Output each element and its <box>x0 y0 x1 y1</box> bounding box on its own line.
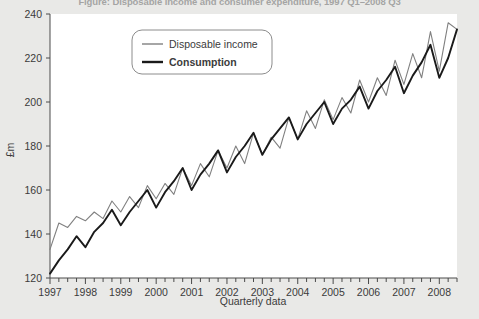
x-tick-label: 2001 <box>180 286 204 298</box>
chart-figure: Figure: Disposable income and consumer e… <box>0 0 479 319</box>
y-tick-label: 240 <box>24 8 42 20</box>
x-tick-label: 2006 <box>357 286 381 298</box>
y-tick-label: 200 <box>24 96 42 108</box>
y-tick-label: 160 <box>24 184 42 196</box>
x-tick-label: 2007 <box>392 286 416 298</box>
x-tick-label: 1997 <box>38 286 62 298</box>
x-tick-label: 2005 <box>321 286 345 298</box>
x-tick-label: 2000 <box>144 286 168 298</box>
legend-label-consumption: Consumption <box>169 56 237 68</box>
line-chart-svg: 120140160180200220240 199719981999200020… <box>0 0 479 319</box>
x-axis-title: Quarterly data <box>220 295 287 307</box>
y-tick-label: 180 <box>24 140 42 152</box>
y-tick-label: 140 <box>24 228 42 240</box>
x-tick-label: 1998 <box>74 286 98 298</box>
y-tick-label: 120 <box>24 272 42 284</box>
y-tick-label: 220 <box>24 52 42 64</box>
y-axis-ticks: 120140160180200220240 <box>24 8 50 284</box>
x-tick-label: 2004 <box>286 286 310 298</box>
legend-label-disposable-income: Disposable income <box>169 38 258 50</box>
y-axis-title: £m <box>4 142 16 157</box>
x-tick-label: 1999 <box>109 286 133 298</box>
x-tick-label: 2008 <box>428 286 452 298</box>
chart-legend[interactable]: Disposable income Consumption <box>132 30 272 74</box>
